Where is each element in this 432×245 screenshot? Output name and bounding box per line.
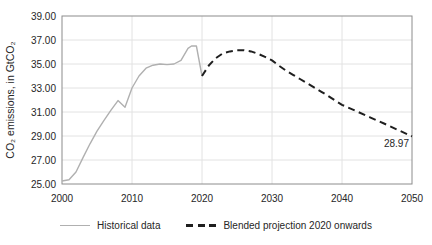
y-tick-label: 31.00 <box>31 107 56 118</box>
y-tick-label: 35.00 <box>31 59 56 70</box>
x-tick-label: 2030 <box>261 193 284 204</box>
x-tick-label: 2040 <box>331 193 354 204</box>
y-tick-label: 39.00 <box>31 11 56 22</box>
y-tick-label: 29.00 <box>31 131 56 142</box>
y-tick-label: 27.00 <box>31 155 56 166</box>
x-tick-label: 2050 <box>401 193 424 204</box>
x-tick-label: 2000 <box>51 193 74 204</box>
y-tick-label: 33.00 <box>31 83 56 94</box>
plot-frame <box>62 16 412 184</box>
projection-line <box>202 50 412 136</box>
end-value-label: 28.97 <box>384 138 409 149</box>
x-tick-label: 2010 <box>121 193 144 204</box>
y-axis-title: CO₂ emissions, in GtCO₂ <box>4 15 18 185</box>
legend: Historical data Blended projection 2020 … <box>0 220 432 231</box>
plot-area: 25.0027.0029.0031.0033.0035.0037.0039.00… <box>0 0 432 245</box>
legend-label-historical: Historical data <box>97 220 160 231</box>
projection-line-swatch-icon <box>186 224 216 227</box>
co2-emissions-chart: 25.0027.0029.0031.0033.0035.0037.0039.00… <box>0 0 432 245</box>
legend-item-projection: Blended projection 2020 onwards <box>186 220 371 231</box>
x-tick-label: 2020 <box>191 193 214 204</box>
y-tick-label: 25.00 <box>31 179 56 190</box>
historical-line-swatch-icon <box>60 225 90 227</box>
legend-item-historical: Historical data <box>60 220 160 231</box>
legend-label-projection: Blended projection 2020 onwards <box>223 220 371 231</box>
y-tick-label: 37.00 <box>31 35 56 46</box>
